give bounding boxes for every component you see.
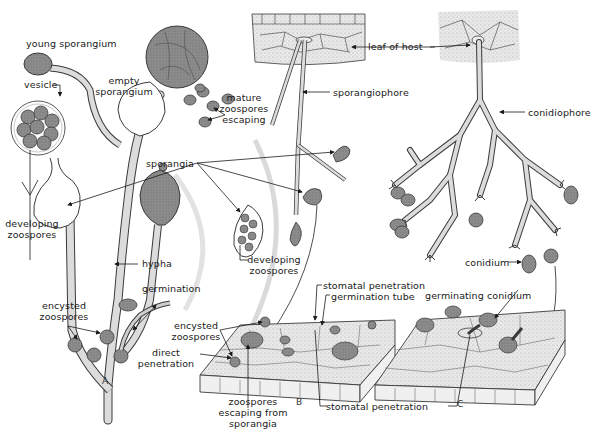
label-direct-line2: penetration: [134, 358, 198, 369]
label-encysted-a-line1: encysted: [36, 300, 92, 311]
panel-letter-b: B: [296, 397, 302, 407]
label-encysted-b-line1: encysted: [170, 320, 222, 331]
label-leaf-of-host: leaf of host: [368, 41, 423, 52]
label-empty-sporangium-line1: empty: [94, 75, 154, 86]
label-mature-line3: escaping: [214, 114, 274, 125]
label-escaping-line3: sporangia: [218, 418, 288, 429]
label-conidium: conidium: [465, 257, 509, 268]
label-encysted-b-line2: zoospores: [170, 331, 222, 342]
label-escaping-line2: escaping from: [218, 407, 288, 418]
label-developing-zoospores-b: developing zoospores: [246, 254, 302, 276]
label-direct-line1: direct: [134, 347, 198, 358]
label-germination: germination: [142, 283, 201, 294]
label-young-sporangium: young sporangium: [26, 38, 117, 49]
label-mature-line2: zoospores: [214, 103, 274, 114]
label-encysted-zoospores-a: encysted zoospores: [36, 300, 92, 322]
panel-letter-a: A: [102, 376, 108, 386]
label-empty-sporangium: empty sporangium: [94, 75, 154, 97]
label-stomatal-penetration-bottom: stomatal penetration: [326, 401, 428, 412]
label-direct-penetration: direct penetration: [134, 347, 198, 369]
label-devzoo-a-line1: developing: [4, 218, 60, 229]
label-germinating-conidium: germinating conidium: [425, 290, 531, 301]
label-encysted-a-line2: zoospores: [36, 311, 92, 322]
label-stomatal-penetration-top: stomatal penetration: [323, 280, 425, 291]
label-encysted-zoospores-b: encysted zoospores: [170, 320, 222, 342]
label-devzoo-b-line2: zoospores: [246, 265, 302, 276]
label-zoospores-escaping-from-sporangia: zoospores escaping from sporangia: [218, 396, 288, 429]
label-devzoo-a-line2: zoospores: [4, 229, 60, 240]
label-germination-tube: germination tube: [331, 291, 415, 302]
label-developing-zoospores-a: developing zoospores: [4, 218, 60, 240]
label-conidiophore: conidiophore: [528, 107, 591, 118]
label-hypha: hypha: [142, 258, 172, 269]
label-empty-sporangium-line2: sporangium: [94, 86, 154, 97]
label-vesicle: vesicle: [24, 79, 57, 90]
label-sporangiophore: sporangiophore: [333, 87, 409, 98]
label-devzoo-b-line1: developing: [246, 254, 302, 265]
label-escaping-line1: zoospores: [218, 396, 288, 407]
panel-letter-c: C: [457, 399, 463, 409]
label-mature-line1: mature: [214, 92, 274, 103]
label-mature-zoospores-escaping: mature zoospores escaping: [214, 92, 274, 125]
label-sporangia: sporangia: [146, 158, 194, 169]
